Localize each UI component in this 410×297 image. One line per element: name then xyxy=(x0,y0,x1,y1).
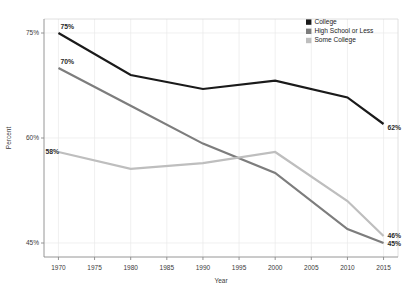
legend-swatch-college xyxy=(306,19,311,24)
ytick-label-75%: 75% xyxy=(26,29,39,36)
data-label-46: 46% xyxy=(388,232,402,239)
xtick-label-1980: 1980 xyxy=(123,264,138,271)
xtick-label-1975: 1975 xyxy=(87,264,102,271)
data-label-62: 62% xyxy=(388,124,402,131)
data-label-58: 58% xyxy=(45,148,59,155)
x-axis: 1970197519801985199019952000200520102015… xyxy=(51,257,391,284)
chart-container: 75%62%70%45%58%46% 197019751980198519901… xyxy=(0,0,410,297)
legend-swatch-high-school-or-less xyxy=(306,29,311,34)
xtick-label-2010: 2010 xyxy=(340,264,355,271)
ytick-label-60%: 60% xyxy=(26,134,39,141)
legend-label-some-college: Some College xyxy=(314,36,356,44)
legend-swatch-some-college xyxy=(306,38,311,43)
line-chart: 75%62%70%45%58%46% 197019751980198519901… xyxy=(0,0,410,297)
y-axis-title: Percent xyxy=(5,127,12,150)
legend-label-high-school-or-less: High School or Less xyxy=(314,27,374,35)
data-label-70: 70% xyxy=(60,58,74,65)
series-line-college xyxy=(58,33,383,124)
data-label-45: 45% xyxy=(388,240,402,247)
chart-legend: CollegeHigh School or LessSome College xyxy=(306,18,374,44)
xtick-label-1990: 1990 xyxy=(196,264,211,271)
xtick-label-1970: 1970 xyxy=(51,264,66,271)
xtick-label-1995: 1995 xyxy=(232,264,247,271)
x-axis-title: Year xyxy=(214,277,228,284)
xtick-label-1985: 1985 xyxy=(160,264,175,271)
series-line-some-college xyxy=(58,152,383,236)
xtick-label-2015: 2015 xyxy=(376,264,391,271)
xtick-label-2000: 2000 xyxy=(268,264,283,271)
y-axis: 45%60%75%Percent xyxy=(5,29,44,246)
legend-label-college: College xyxy=(314,18,337,26)
xtick-label-2005: 2005 xyxy=(304,264,319,271)
data-label-75: 75% xyxy=(60,23,74,30)
ytick-label-45%: 45% xyxy=(26,239,39,246)
